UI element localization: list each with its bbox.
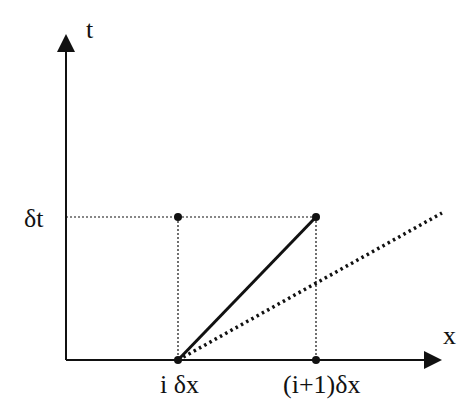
diagram-canvas: t x δt i δx (i+1)δx	[0, 0, 476, 420]
dotted-characteristic-line	[178, 213, 442, 360]
point-i1-0	[312, 356, 320, 364]
i-dx-tick-label: i δx	[160, 370, 199, 399]
x-axis-label: x	[443, 321, 456, 350]
point-i-dt	[174, 213, 182, 221]
x-axis-arrow-icon	[424, 351, 442, 369]
t-axis-label: t	[86, 15, 94, 44]
solid-characteristic-line	[178, 217, 316, 360]
point-i-0	[174, 356, 182, 364]
t-axis-arrow-icon	[57, 34, 75, 52]
i1-dx-tick-label: (i+1)δx	[283, 370, 360, 399]
dt-tick-label: δt	[24, 204, 44, 233]
point-i1-dt	[312, 213, 320, 221]
